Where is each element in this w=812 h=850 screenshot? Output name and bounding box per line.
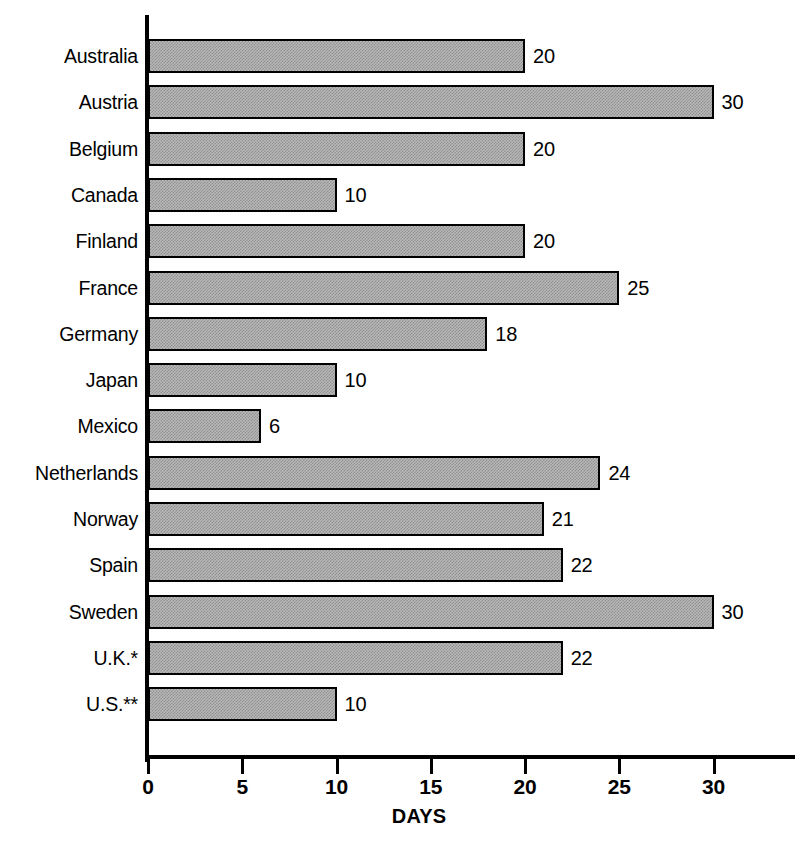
bar-row: Canada10 — [0, 178, 812, 212]
bar-value-label: 20 — [533, 224, 555, 258]
bar-rows-container: Australia20Austria30Belgium20Canada10Fin… — [0, 0, 812, 758]
bar-row: Netherlands24 — [0, 456, 812, 490]
bar — [148, 317, 487, 351]
x-axis-tick — [524, 759, 527, 774]
category-label: Netherlands — [35, 456, 138, 490]
bar-value-label: 10 — [345, 363, 367, 397]
bar-row: Austria30 — [0, 85, 812, 119]
bar-row: Mexico6 — [0, 409, 812, 443]
bar — [148, 85, 714, 119]
x-axis-title-label: DAYS — [392, 805, 447, 827]
bar-row: U.K.*22 — [0, 641, 812, 675]
bar-row: Spain22 — [0, 548, 812, 582]
x-axis-tick-label: 30 — [684, 775, 744, 799]
category-label: Australia — [64, 39, 138, 73]
bar — [148, 409, 261, 443]
bar-value-label: 18 — [495, 317, 517, 351]
bar-row: Japan10 — [0, 363, 812, 397]
bar-value-label: 24 — [608, 456, 630, 490]
bar-value-label: 20 — [533, 39, 555, 73]
bar-chart: Australia20Austria30Belgium20Canada10Fin… — [0, 0, 812, 850]
category-label: Canada — [71, 178, 138, 212]
category-label: Spain — [89, 548, 138, 582]
bar — [148, 271, 619, 305]
category-label: Finland — [75, 224, 138, 258]
x-axis-tick — [147, 759, 150, 774]
bar — [148, 363, 337, 397]
x-axis-tick-label: 25 — [589, 775, 649, 799]
bar-value-label: 25 — [627, 271, 649, 305]
x-axis-tick — [241, 759, 244, 774]
category-label: Belgium — [69, 132, 138, 166]
bar — [148, 548, 563, 582]
bar-row: U.S.**10 — [0, 687, 812, 721]
category-label: U.K.* — [93, 641, 138, 675]
bar — [148, 687, 337, 721]
bar-value-label: 22 — [571, 641, 593, 675]
bar — [148, 39, 525, 73]
category-label: U.S.** — [86, 687, 138, 721]
category-label: Austria — [79, 85, 138, 119]
bar-value-label: 10 — [345, 687, 367, 721]
x-axis-tick — [618, 759, 621, 774]
x-axis-tick-label: 20 — [495, 775, 555, 799]
bar — [148, 224, 525, 258]
x-axis-tick-label: 10 — [307, 775, 367, 799]
category-label: Sweden — [69, 595, 138, 629]
x-axis-tick — [713, 759, 716, 774]
bar-value-label: 10 — [345, 178, 367, 212]
bar — [148, 595, 714, 629]
category-label: France — [79, 271, 139, 305]
bar-row: Germany18 — [0, 317, 812, 351]
x-axis-tick-label: 0 — [118, 775, 178, 799]
category-label: Germany — [59, 317, 138, 351]
bar — [148, 132, 525, 166]
bar-value-label: 20 — [533, 132, 555, 166]
category-label: Japan — [86, 363, 138, 397]
bar-value-label: 21 — [552, 502, 574, 536]
bar-value-label: 22 — [571, 548, 593, 582]
bar — [148, 178, 337, 212]
bar — [148, 456, 600, 490]
bar-value-label: 6 — [269, 409, 280, 443]
bar-row: France25 — [0, 271, 812, 305]
bar-row: Finland20 — [0, 224, 812, 258]
category-label: Mexico — [77, 409, 138, 443]
bar-row: Belgium20 — [0, 132, 812, 166]
bar-row: Norway21 — [0, 502, 812, 536]
x-axis-tick-label: 15 — [401, 775, 461, 799]
x-axis-title: DAYS — [0, 805, 812, 828]
bar — [148, 502, 544, 536]
category-label: Norway — [73, 502, 138, 536]
bar-value-label: 30 — [722, 85, 744, 119]
bar-value-label: 30 — [722, 595, 744, 629]
x-axis-tick-label: 5 — [212, 775, 272, 799]
bar-row: Australia20 — [0, 39, 812, 73]
bar-row: Sweden30 — [0, 595, 812, 629]
bar — [148, 641, 563, 675]
x-axis-tick — [336, 759, 339, 774]
x-axis-tick — [430, 759, 433, 774]
